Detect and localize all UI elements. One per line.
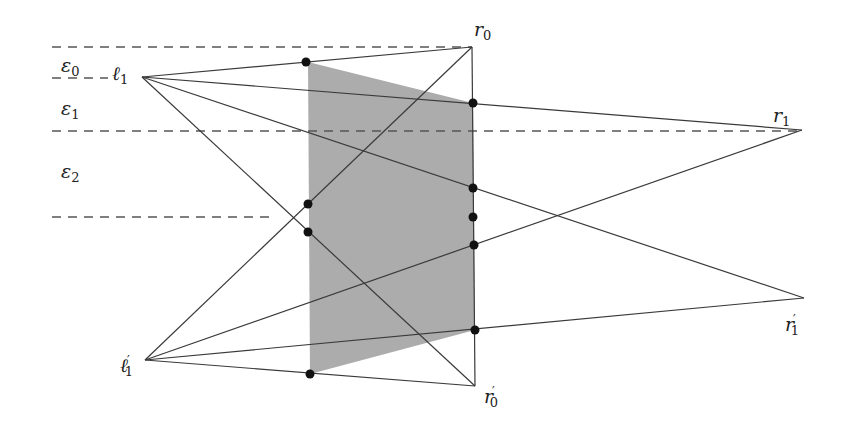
label-r1-prime: r′1: [785, 314, 799, 337]
label-subscript: 0: [483, 28, 491, 43]
label-epsilon-2: ε2: [61, 162, 79, 184]
dot: [471, 326, 480, 335]
label-l1-prime: ℓ′1: [120, 355, 133, 378]
dot: [469, 213, 478, 222]
label-subscript: 0: [490, 395, 498, 410]
label-subscript: 2: [71, 170, 79, 185]
shaded-region: [308, 62, 475, 374]
label-r0: r0: [474, 20, 491, 42]
label-symbol: r: [474, 18, 483, 40]
label-symbol: r: [773, 104, 782, 126]
label-l1: ℓ1: [112, 64, 128, 86]
label-subscript: 1: [125, 364, 133, 379]
label-r0-prime: r′0: [484, 386, 498, 409]
dot: [469, 184, 478, 193]
dot: [302, 58, 311, 67]
label-epsilon-0: ε0: [61, 56, 79, 78]
label-subscript: 1: [120, 72, 128, 87]
label-symbol: ℓ: [112, 62, 120, 84]
dot: [470, 241, 479, 250]
label-subscript: 1: [71, 107, 79, 122]
label-subscript: 0: [71, 64, 79, 79]
label-symbol: ε: [61, 160, 71, 182]
label-subscript: 1: [791, 323, 799, 338]
label-r1: r1: [773, 106, 790, 128]
label-symbol: ε: [61, 54, 71, 76]
dot: [306, 370, 315, 379]
label-subscript: 1: [782, 114, 790, 129]
label-symbol: ε: [61, 97, 71, 119]
dot: [304, 228, 313, 237]
label-epsilon-1: ε1: [61, 99, 79, 121]
dot: [469, 99, 478, 108]
dot: [304, 200, 313, 209]
